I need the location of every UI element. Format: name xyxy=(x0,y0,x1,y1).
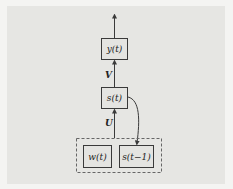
output-node: y(t) xyxy=(101,38,128,60)
weight-v-label: V xyxy=(105,70,112,80)
recurrent-arrow xyxy=(128,97,139,143)
input-word-node: w(t) xyxy=(83,145,112,168)
weight-u-label: U xyxy=(105,118,113,128)
prev-state-node: s(t−1) xyxy=(119,145,154,168)
state-node: s(t) xyxy=(101,87,128,109)
